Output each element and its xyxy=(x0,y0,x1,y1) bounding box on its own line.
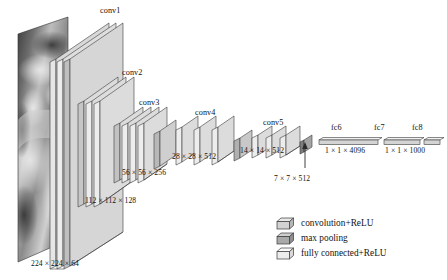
conv-box-icon xyxy=(276,217,295,230)
legend-label-fully-connected: fully connected+ReLU xyxy=(301,248,387,258)
legend-label-max-pooling: max pooling xyxy=(301,233,348,243)
legend-item-max-pooling: max pooling xyxy=(276,231,446,245)
conv5-label: conv5 xyxy=(263,118,284,127)
conv3-label: conv3 xyxy=(139,98,160,107)
fc7-bar xyxy=(384,138,424,145)
conv2-dim-label: 112 × 112 × 128 xyxy=(85,196,136,205)
conv1-label: conv1 xyxy=(100,6,121,15)
fc6-label: fc6 xyxy=(331,123,342,132)
conv1-dim-label: 224 × 224 × 64 xyxy=(31,259,79,268)
pool-callout-label: 7 × 7 × 512 xyxy=(274,174,310,183)
final-max-pooling xyxy=(300,135,312,154)
conv3-dim-label: 56 × 56 × 256 xyxy=(122,168,166,177)
conv2-label: conv2 xyxy=(122,68,143,77)
pool-box-icon xyxy=(276,232,295,245)
conv5-dim-label: 14 × 14 × 512 xyxy=(240,146,284,155)
fc6-dim-label: 1 × 1 × 4096 xyxy=(325,146,365,155)
fc6-bar xyxy=(319,138,382,145)
fc8-label: fc8 xyxy=(412,123,423,132)
conv4-dim-label: 28 × 28 × 512 xyxy=(172,152,216,161)
conv4-label: conv4 xyxy=(195,108,216,117)
fc-box-icon xyxy=(276,247,295,260)
figure-canvas: conv1 conv2 conv3 conv4 conv5 fc6 fc7 fc… xyxy=(0,0,447,280)
fc7-label: fc7 xyxy=(374,123,385,132)
fc8-dim-label: 1 × 1 × 1000 xyxy=(385,146,425,155)
fc8-bar xyxy=(424,138,444,145)
legend: convolution+ReLU max pooling fully conne… xyxy=(276,216,446,261)
legend-item-fully-connected: fully connected+ReLU xyxy=(276,246,446,260)
legend-label-convolution: convolution+ReLU xyxy=(301,218,373,228)
conv5-block xyxy=(234,126,300,161)
legend-item-convolution: convolution+ReLU xyxy=(276,216,446,230)
